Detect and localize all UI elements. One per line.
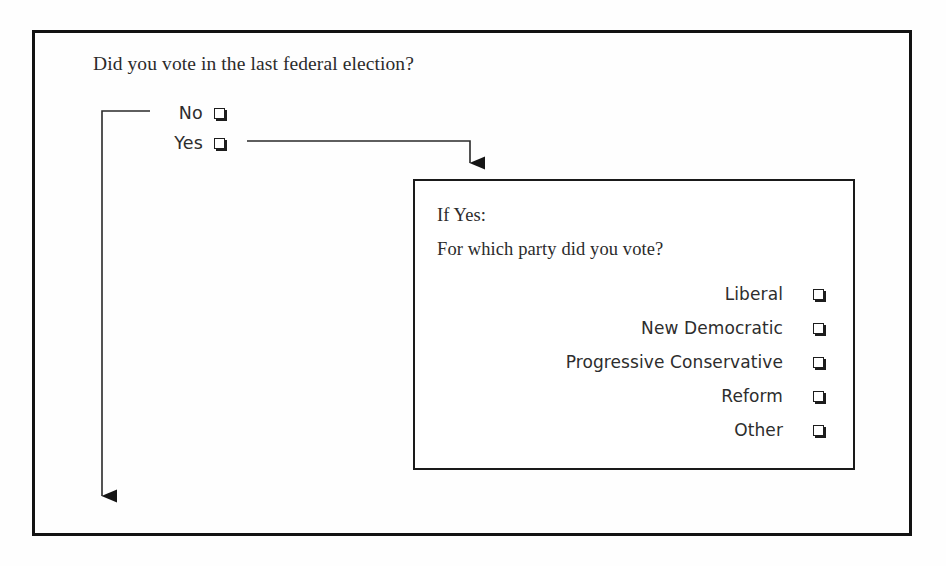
empty-checkbox[interactable] bbox=[813, 357, 824, 368]
empty-checkbox[interactable] bbox=[214, 138, 225, 149]
party-option-new-democratic-label: New Democratic bbox=[641, 318, 783, 338]
party-option-liberal[interactable]: Liberal bbox=[455, 277, 827, 311]
answer-options-group: No Yes bbox=[118, 98, 228, 158]
party-option-other-label: Other bbox=[734, 420, 783, 440]
empty-checkbox[interactable] bbox=[813, 289, 824, 300]
party-option-new-democratic[interactable]: New Democratic bbox=[455, 311, 827, 345]
party-option-progressive-conservative-label: Progressive Conservative bbox=[566, 352, 783, 372]
diagram-page: Did you vote in the last federal electio… bbox=[0, 0, 946, 566]
answer-option-yes-label: Yes bbox=[174, 133, 203, 153]
empty-checkbox[interactable] bbox=[813, 391, 824, 402]
party-option-other[interactable]: Other bbox=[455, 413, 827, 447]
if-yes-branch-box: If Yes: For which party did you vote? Li… bbox=[413, 179, 855, 470]
party-option-liberal-label: Liberal bbox=[725, 284, 783, 304]
party-option-progressive-conservative[interactable]: Progressive Conservative bbox=[455, 345, 827, 379]
if-yes-condition-label: If Yes: bbox=[437, 205, 486, 226]
party-options-list: Liberal New Democratic Progressive Conse… bbox=[455, 277, 827, 447]
answer-option-no-label: No bbox=[179, 103, 203, 123]
answer-option-yes[interactable]: Yes bbox=[118, 128, 228, 158]
party-question-text: For which party did you vote? bbox=[437, 239, 663, 260]
party-option-reform[interactable]: Reform bbox=[455, 379, 827, 413]
answer-option-no[interactable]: No bbox=[118, 98, 228, 128]
party-option-reform-label: Reform bbox=[721, 386, 783, 406]
empty-checkbox[interactable] bbox=[214, 108, 225, 119]
main-question-text: Did you vote in the last federal electio… bbox=[93, 52, 414, 76]
empty-checkbox[interactable] bbox=[813, 323, 824, 334]
empty-checkbox[interactable] bbox=[813, 425, 824, 436]
